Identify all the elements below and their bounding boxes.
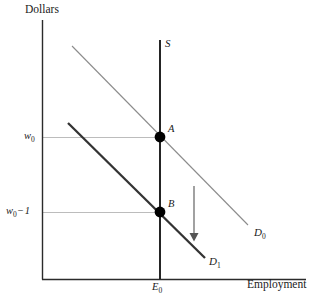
demand-d1-label: D1 — [209, 256, 221, 267]
y-tick-w0m1-addend: 1 — [25, 205, 30, 216]
y-tick-w0-base: w — [24, 130, 31, 141]
point-a-marker — [155, 132, 166, 143]
point-b-marker — [155, 207, 166, 218]
labor-demand-shift-figure: Dollars Employment S D0 D1 A B w0 w0−1 E… — [0, 0, 311, 300]
y-tick-w0-subscript: 0 — [31, 135, 35, 144]
x-axis-title: Employment — [247, 279, 306, 291]
point-b-label: B — [168, 199, 174, 210]
demand-d1-label-subscript: 1 — [217, 261, 221, 270]
y-axis-title: Dollars — [25, 4, 59, 16]
y-tick-label-w0: w0 — [24, 131, 35, 142]
demand-d0-label-base: D — [254, 226, 262, 238]
y-tick-label-w0-minus-1: w0−1 — [6, 206, 30, 217]
demand-d1-label-base: D — [209, 255, 217, 267]
x-tick-e0-subscript: 0 — [158, 286, 162, 295]
point-a-label: A — [168, 124, 174, 135]
diagram-canvas — [0, 0, 311, 300]
demand-curve-d1 — [68, 123, 205, 258]
demand-d0-label-subscript: 0 — [262, 232, 266, 241]
demand-d0-label: D0 — [254, 227, 266, 238]
y-tick-w0m1-subscript: 0 — [13, 210, 17, 219]
supply-curve-label: S — [165, 38, 171, 49]
y-tick-w0m1-base: w — [6, 205, 13, 216]
y-tick-w0m1-operator: − — [17, 205, 25, 216]
shift-arrow-head — [190, 233, 199, 242]
x-tick-label-e0: E0 — [152, 282, 162, 293]
